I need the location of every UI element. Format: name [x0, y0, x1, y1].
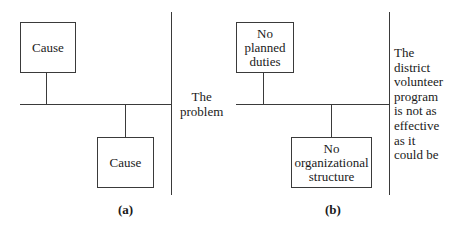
- effect-divider: [389, 12, 390, 195]
- effect-line: effective: [394, 119, 443, 134]
- effect-line: could be: [394, 148, 443, 163]
- effect-label: The problem: [180, 90, 223, 119]
- spine-line: [20, 104, 172, 105]
- effect-divider: [171, 12, 172, 195]
- effect-line: is not as: [394, 104, 443, 119]
- cause-label-line: No: [294, 142, 368, 156]
- effect-line: The: [180, 90, 223, 105]
- spine-line: [236, 104, 390, 105]
- effect-line: program: [394, 90, 443, 105]
- cause-label-line: organizational: [294, 156, 368, 170]
- cause-box: No planned duties: [236, 22, 294, 73]
- effect-label: The district volunteer program is not as…: [394, 46, 443, 163]
- effect-line: The: [394, 46, 443, 61]
- effect-line: problem: [180, 105, 223, 120]
- cause-label-line: duties: [244, 55, 285, 69]
- cause-box: No organizational structure: [291, 137, 372, 188]
- cause-box: Cause: [20, 22, 76, 73]
- diagram-caption: (b): [325, 202, 341, 218]
- cause-connector: [263, 72, 264, 104]
- cause-label: Cause: [110, 156, 142, 170]
- cause-label-line: No: [244, 27, 285, 41]
- effect-line: as it: [394, 134, 443, 149]
- cause-box: Cause: [97, 137, 154, 188]
- effect-line: volunteer: [394, 75, 443, 90]
- effect-line: district: [394, 61, 443, 76]
- cause-label: Cause: [32, 41, 64, 55]
- cause-connector: [331, 104, 332, 137]
- cause-connector: [125, 104, 126, 137]
- cause-connector: [46, 72, 47, 104]
- diagram-caption: (a): [118, 202, 133, 218]
- cause-label-line: structure: [294, 170, 368, 184]
- cause-label-line: planned: [244, 41, 285, 55]
